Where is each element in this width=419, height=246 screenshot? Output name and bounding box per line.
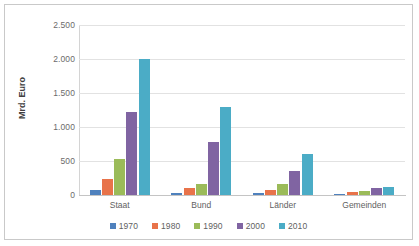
y-axis-tick-label: 1.000 <box>29 123 75 131</box>
x-axis-line <box>79 195 406 196</box>
x-axis-category-label: Staat <box>79 200 161 210</box>
bar-länder-1970[interactable] <box>253 193 264 195</box>
bar-länder-2000[interactable] <box>289 171 300 195</box>
bar-bund-1970[interactable] <box>171 193 182 195</box>
bar-länder-1990[interactable] <box>277 184 288 195</box>
bar-staat-1990[interactable] <box>114 159 125 195</box>
bar-bund-2010[interactable] <box>220 107 231 195</box>
bar-staat-1980[interactable] <box>102 179 113 195</box>
y-axis-tick-label: 500 <box>29 157 75 165</box>
bar-group <box>90 25 150 195</box>
legend-label: 1970 <box>119 221 138 231</box>
y-axis-tick-label: 0 <box>29 191 75 199</box>
legend-swatch-icon <box>279 223 285 229</box>
x-axis-category-label: Gemeinden <box>324 200 406 210</box>
y-axis-tick-label: 2.000 <box>29 55 75 63</box>
bar-bund-1990[interactable] <box>196 184 207 195</box>
bar-staat-2000[interactable] <box>126 112 137 195</box>
bar-group <box>334 25 394 195</box>
legend-swatch-icon <box>110 223 116 229</box>
legend-label: 1990 <box>203 221 222 231</box>
bar-gemeinden-1980[interactable] <box>347 192 358 195</box>
legend-item-1970[interactable]: 1970 <box>110 221 138 231</box>
bar-gemeinden-2010[interactable] <box>383 187 394 195</box>
bar-staat-1970[interactable] <box>90 190 101 195</box>
legend-swatch-icon <box>152 223 158 229</box>
legend-item-2010[interactable]: 2010 <box>279 221 307 231</box>
legend-label: 1980 <box>161 221 180 231</box>
x-axis-category-label: Bund <box>161 200 243 210</box>
y-axis-tick-label: 2.500 <box>29 21 75 29</box>
bar-länder-1980[interactable] <box>265 190 276 195</box>
bar-group <box>171 25 231 195</box>
legend-label: 2000 <box>246 221 265 231</box>
y-axis-tick-labels: 2.5002.0001.5001.0005000 <box>23 5 75 241</box>
x-axis-category-label: Länder <box>242 200 324 210</box>
bar-bund-2000[interactable] <box>208 142 219 195</box>
bar-staat-2010[interactable] <box>139 59 150 195</box>
bar-gemeinden-2000[interactable] <box>371 188 382 195</box>
bar-group <box>253 25 313 195</box>
legend-item-1980[interactable]: 1980 <box>152 221 180 231</box>
chart-legend: 19701980199020002010 <box>5 221 412 231</box>
y-axis-title: Mrd. Euro <box>17 63 27 133</box>
bar-gemeinden-1970[interactable] <box>334 194 345 195</box>
legend-swatch-icon <box>194 223 200 229</box>
legend-item-2000[interactable]: 2000 <box>237 221 265 231</box>
bar-bund-1980[interactable] <box>184 188 195 195</box>
bar-gemeinden-1990[interactable] <box>359 191 370 195</box>
chart-frame: 2.5002.0001.5001.0005000 Mrd. Euro Staat… <box>4 4 413 240</box>
legend-swatch-icon <box>237 223 243 229</box>
legend-label: 2010 <box>288 221 307 231</box>
y-axis-tick-label: 1.500 <box>29 89 75 97</box>
bar-länder-2010[interactable] <box>302 154 313 195</box>
legend-item-1990[interactable]: 1990 <box>194 221 222 231</box>
plot-area <box>79 25 405 195</box>
